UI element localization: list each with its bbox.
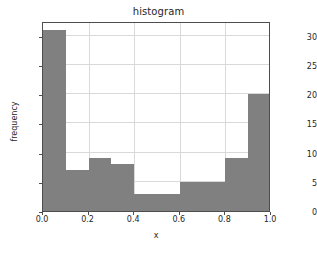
y-tick-label: 25 [283,62,317,71]
y-tick-label: 20 [283,91,317,100]
histogram-bar [180,182,203,211]
x-tick-mark [88,212,89,215]
histogram-bar [111,164,134,211]
y-tick-mark [39,183,42,184]
x-tick-label: 1.0 [250,215,290,224]
x-tick-mark [270,212,271,215]
histogram-bar [89,158,112,211]
chart-title: histogram [0,6,317,17]
y-tick-label: 15 [283,120,317,129]
y-tick-mark [39,66,42,67]
x-tick-mark [42,212,43,215]
y-tick-mark [39,124,42,125]
x-tick-label: 0.6 [159,215,199,224]
y-tick-mark [39,154,42,155]
histogram-bar [43,30,66,211]
y-axis-label: frequency [10,72,19,172]
x-tick-label: 0.8 [204,215,244,224]
y-tick-mark [39,95,42,96]
y-tick-label: 5 [283,178,317,187]
histogram-bar [248,94,270,211]
y-tick-label: 30 [283,32,317,41]
x-tick-label: 0.2 [68,215,108,224]
x-tick-label: 0.4 [113,215,153,224]
x-axis-label: x [42,231,270,240]
histogram-bar [134,194,157,212]
histogram-bar [157,194,180,212]
y-tick-label: 10 [283,149,317,158]
x-tick-mark [224,212,225,215]
y-tick-mark [39,37,42,38]
histogram-bar [203,182,226,211]
histogram-bars [43,23,269,211]
x-tick-label: 0.0 [22,215,62,224]
x-tick-mark [133,212,134,215]
plot-area [42,22,270,212]
histogram-figure: histogram 051015202530 0.00.20.40.60.81.… [0,0,317,256]
histogram-bar [66,170,89,211]
x-tick-mark [179,212,180,215]
histogram-bar [225,158,248,211]
